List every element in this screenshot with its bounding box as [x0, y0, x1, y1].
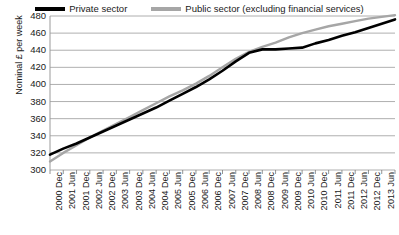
x-axis-tick-labels: 2000 Dec2001 Jun2001 Dec2002 Jun2002 Dec…: [50, 172, 395, 234]
plot-area: [50, 16, 395, 170]
x-axis-tick-label: 2010 Jun: [306, 172, 316, 234]
legend-item-public-sector: Public sector (excluding financial servi…: [151, 4, 363, 14]
legend-label-private-sector: Private sector: [69, 4, 127, 14]
y-axis-tick-label: 460: [14, 28, 46, 38]
x-axis-tick-label: 2012 Dec: [372, 172, 382, 234]
x-axis-tick-label: 2002 Dec: [107, 172, 117, 234]
x-axis-tick-label: 2013 Jun: [386, 172, 396, 234]
y-axis-tick-label: 380: [14, 97, 46, 107]
y-axis-tick-label: 360: [14, 114, 46, 124]
y-axis-tick-label: 400: [14, 79, 46, 89]
y-axis-tick-label: 420: [14, 62, 46, 72]
legend-item-private-sector: Private sector: [35, 4, 127, 14]
x-axis-tick-label: 2012 Jun: [359, 172, 369, 234]
y-axis-tick-label: 340: [14, 131, 46, 141]
x-axis-tick-label: 2006 Dec: [213, 172, 223, 234]
legend-line-swatch-public-icon: [151, 7, 181, 11]
x-axis-tick-label: 2000 Dec: [54, 172, 64, 234]
x-axis-tick-label: 2004 Dec: [160, 172, 170, 234]
y-axis-tick-label: 300: [14, 165, 46, 175]
x-axis-tick-label: 2008 Jun: [253, 172, 263, 234]
y-axis-tick-label: 440: [14, 45, 46, 55]
y-axis-tick-label: 320: [14, 148, 46, 158]
x-axis-tick-label: 2007 Dec: [240, 172, 250, 234]
x-axis-tick-label: 2005 Jun: [173, 172, 183, 234]
x-axis-tick-label: 2010 Dec: [319, 172, 329, 234]
chart-container: Private sector Public sector (excluding …: [0, 0, 399, 235]
x-axis-tick-label: 2009 Jun: [280, 172, 290, 234]
x-axis-tick-label: 2011 Jun: [333, 172, 343, 234]
x-axis-tick-label: 2003 Dec: [134, 172, 144, 234]
x-axis-tick-label: 2011 Dec: [346, 172, 356, 234]
x-axis-tick-label: 2004 Jun: [147, 172, 157, 234]
series-line-private: [50, 19, 395, 154]
x-axis-tick-label: 2003 Jun: [120, 172, 130, 234]
x-axis-tick-label: 2009 Dec: [293, 172, 303, 234]
y-axis-tick-labels: 480460440420400380360340320300: [14, 16, 46, 170]
x-axis-tick-label: 2002 Jun: [94, 172, 104, 234]
x-axis-tick-label: 2001 Jun: [67, 172, 77, 234]
y-axis-tick-label: 480: [14, 11, 46, 21]
series-line-public: [50, 15, 395, 161]
x-axis-tick-label: 2001 Dec: [81, 172, 91, 234]
x-axis-tick-label: 2005 Dec: [187, 172, 197, 234]
plot-svg: [50, 16, 395, 170]
x-axis-tick-label: 2008 Dec: [266, 172, 276, 234]
legend-label-public-sector: Public sector (excluding financial servi…: [185, 4, 363, 14]
x-axis-tick-label: 2007 Jun: [227, 172, 237, 234]
x-axis-tick-label: 2006 Jun: [200, 172, 210, 234]
